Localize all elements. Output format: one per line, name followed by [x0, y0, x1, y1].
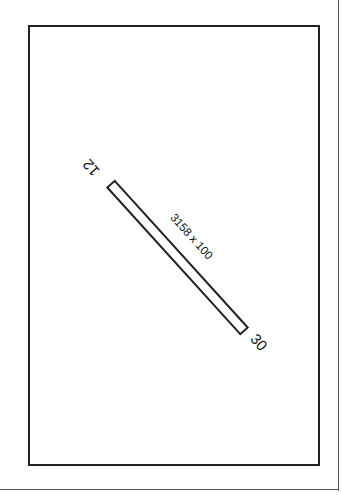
- runway-end-30-label-group: 30: [247, 330, 271, 354]
- runway-end-30-label: 30: [247, 330, 271, 354]
- runway: [107, 181, 247, 334]
- runway-diagram: 12 30 3158 x 100: [0, 0, 342, 495]
- runway-end-12-label: 12: [79, 156, 103, 180]
- runway-end-12-label-group: 12: [79, 156, 103, 180]
- runway-outline: [107, 181, 247, 334]
